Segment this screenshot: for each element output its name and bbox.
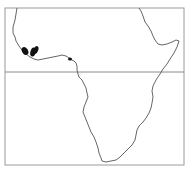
range-patch-gulf [68,57,72,60]
map-frame [5,8,184,165]
africa-coastline [13,8,179,162]
africa-distribution-map [0,0,188,172]
range-patch-west [20,46,29,56]
